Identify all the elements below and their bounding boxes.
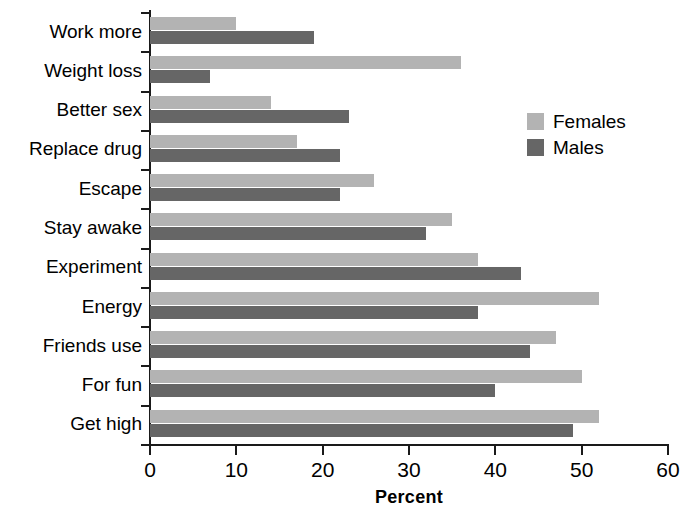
bar-females-better-sex xyxy=(150,96,271,109)
category-label: Energy xyxy=(4,297,142,316)
category-row: Friends use xyxy=(150,326,668,365)
bar-females-experiment xyxy=(150,253,478,266)
legend-entry-males: Males xyxy=(527,134,626,160)
bar-females-stay-awake xyxy=(150,213,452,226)
x-axis-tick-label: 60 xyxy=(648,458,685,482)
legend-entry-females: Females xyxy=(527,108,626,134)
legend-label-females: Females xyxy=(553,112,626,131)
bar-males-stay-awake xyxy=(150,227,426,240)
category-label: Replace drug xyxy=(4,139,142,158)
bar-females-friends-use xyxy=(150,331,556,344)
category-label: For fun xyxy=(4,375,142,394)
category-label: Friends use xyxy=(4,336,142,355)
bar-males-energy xyxy=(150,306,478,319)
category-row: Work more xyxy=(150,12,668,51)
x-axis-tick-label: 20 xyxy=(303,458,343,482)
x-axis-tick xyxy=(408,446,410,455)
x-axis-title: Percent xyxy=(150,487,668,508)
x-axis-tick-label: 10 xyxy=(216,458,256,482)
category-label: Better sex xyxy=(4,100,142,119)
bar-females-weight-loss xyxy=(150,56,461,69)
category-label: Escape xyxy=(4,179,142,198)
category-row: Stay awake xyxy=(150,208,668,247)
bar-males-friends-use xyxy=(150,345,530,358)
x-axis-tick-label: 0 xyxy=(130,458,170,482)
y-axis-tick xyxy=(141,169,150,171)
category-label: Experiment xyxy=(4,257,142,276)
bar-males-better-sex xyxy=(150,110,349,123)
category-row: Weight loss xyxy=(150,51,668,90)
category-row: Get high xyxy=(150,405,668,444)
y-axis-tick xyxy=(141,51,150,53)
category-label: Work more xyxy=(4,22,142,41)
y-axis-tick xyxy=(141,130,150,132)
plot-area: Work moreWeight lossBetter sexReplace dr… xyxy=(150,12,668,444)
x-axis-tick xyxy=(149,446,151,455)
bar-females-get-high xyxy=(150,410,599,423)
category-row: Escape xyxy=(150,169,668,208)
category-label: Stay awake xyxy=(4,218,142,237)
bar-males-escape xyxy=(150,188,340,201)
y-axis-tick xyxy=(141,208,150,210)
bar-chart: Work moreWeight lossBetter sexReplace dr… xyxy=(0,0,685,514)
x-axis-tick xyxy=(581,446,583,455)
y-axis-tick xyxy=(141,12,150,14)
bar-females-escape xyxy=(150,174,374,187)
category-label: Get high xyxy=(4,414,142,433)
x-axis-tick xyxy=(235,446,237,455)
bar-males-for-fun xyxy=(150,384,495,397)
x-axis-tick-label: 50 xyxy=(562,458,602,482)
y-axis-tick xyxy=(141,287,150,289)
legend-swatch-males xyxy=(527,139,544,156)
bar-males-work-more xyxy=(150,31,314,44)
bar-females-replace-drug xyxy=(150,135,297,148)
bar-females-energy xyxy=(150,292,599,305)
legend-label-males: Males xyxy=(553,138,604,157)
category-row: Energy xyxy=(150,287,668,326)
category-row: For fun xyxy=(150,365,668,404)
bar-males-replace-drug xyxy=(150,149,340,162)
x-axis-tick xyxy=(494,446,496,455)
x-axis-tick xyxy=(322,446,324,455)
bar-males-experiment xyxy=(150,267,521,280)
category-row: Experiment xyxy=(150,248,668,287)
legend-swatch-females xyxy=(527,113,544,130)
x-axis-tick xyxy=(667,446,669,455)
y-axis-tick xyxy=(141,248,150,250)
bar-females-work-more xyxy=(150,17,236,30)
bar-males-get-high xyxy=(150,424,573,437)
y-axis-tick xyxy=(141,365,150,367)
y-axis-tick xyxy=(141,405,150,407)
chart-legend: Females Males xyxy=(527,108,626,160)
x-axis-tick-label: 30 xyxy=(389,458,429,482)
bar-females-for-fun xyxy=(150,370,582,383)
x-axis-tick-label: 40 xyxy=(475,458,515,482)
bar-males-weight-loss xyxy=(150,70,210,83)
y-axis-tick xyxy=(141,326,150,328)
category-label: Weight loss xyxy=(4,61,142,80)
y-axis-tick xyxy=(141,91,150,93)
